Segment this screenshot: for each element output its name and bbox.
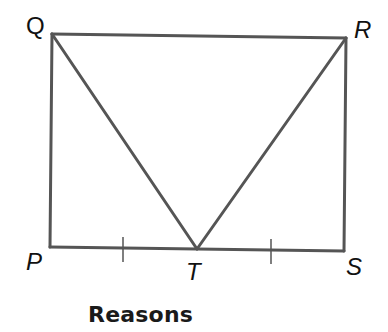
segment-QT: [52, 34, 197, 249]
segment-RT: [197, 38, 346, 249]
reasons-heading: Reasons: [88, 302, 193, 327]
vertex-label-q: Q: [26, 12, 45, 39]
vertex-label-t: T: [186, 258, 203, 285]
segment-RS: [344, 38, 346, 251]
segment-QP: [50, 34, 52, 247]
vertex-label-p: P: [26, 248, 42, 275]
segment-QR: [52, 34, 346, 38]
vertex-label-s: S: [346, 253, 362, 280]
vertex-label-r: R: [354, 16, 371, 43]
geometry-diagram: Q R P T S: [0, 0, 388, 300]
